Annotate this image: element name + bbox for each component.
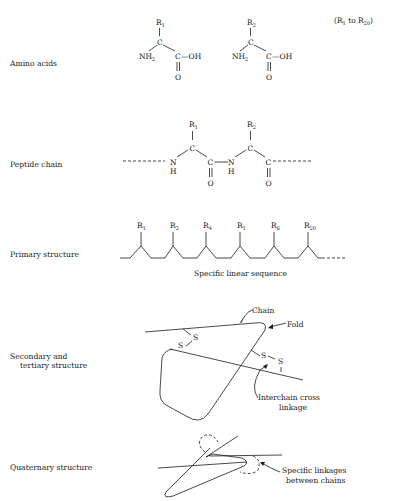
row-quaternary: Quaternary structure Specific linkages b…: [10, 435, 346, 497]
peptide-carbonyl-carbon-1: C: [208, 158, 214, 167]
peptide-carbonyl-oxygen-1: O: [208, 179, 214, 188]
annotation-linkages-1: Specific linkages: [282, 466, 346, 475]
range-note: (R1 to R20): [334, 16, 373, 26]
sulfur-4: S: [278, 357, 283, 366]
hydroxyl-2: —OH: [272, 52, 293, 61]
sulfur-1: S: [193, 333, 198, 342]
amino-group-1: NH2: [139, 52, 155, 62]
peptide-hydrogen-2: H: [228, 167, 235, 176]
r-group-1: R1: [156, 18, 165, 28]
label-peptide-chain: Peptide chain: [10, 160, 62, 169]
peptide-carbonyl-oxygen-2: O: [266, 179, 272, 188]
label-secondary: Secondary and: [10, 352, 68, 361]
r-group-2: R2: [247, 18, 256, 28]
chain-arrow: [241, 310, 252, 323]
side-chain-4: R1: [237, 221, 246, 231]
sulfur-3: S: [261, 351, 266, 360]
row-peptide-chain: Peptide chain R1 C N H C O R2 C N H C O: [10, 120, 313, 188]
carbonyl-oxygen-1: O: [175, 73, 181, 82]
annotation-cross-linkage-2: linkage: [279, 403, 307, 412]
peptide-r-group-2: R2: [247, 120, 256, 130]
peptide-r-group-1: R1: [189, 120, 198, 130]
side-chain-5: R6: [271, 221, 280, 231]
annotation-chain: Chain: [252, 306, 274, 315]
side-chain-1: R1: [137, 221, 146, 231]
label-tertiary: tertiary structure: [20, 361, 88, 370]
annotation-fold: Fold: [287, 320, 304, 329]
peptide-carbonyl-carbon-2: C: [266, 158, 272, 167]
amino-acid-1: R1 C NH2 C —OH O: [139, 18, 202, 82]
side-chain-6: R20: [304, 221, 316, 231]
label-quaternary: Quaternary structure: [10, 463, 93, 472]
peptide-hydrogen-1: H: [170, 167, 177, 176]
side-chain-2: R2: [170, 221, 179, 231]
row-primary-structure: Primary structure R1 R2 R4 R1 R6 R20 Spe…: [10, 221, 346, 278]
label-primary-structure: Primary structure: [10, 250, 80, 259]
caption-linear-sequence: Specific linear sequence: [194, 269, 287, 278]
alpha-carbon-1: C: [157, 38, 163, 47]
row-secondary-tertiary: Secondary and tertiary structure S S S S…: [10, 306, 320, 420]
peptide-alpha-carbon-2: C: [248, 144, 254, 153]
side-chain-3: R4: [203, 221, 212, 231]
folded-chain: [145, 323, 266, 420]
protein-structure-diagram: Amino acids (R1 to R20) R1 C NH2 C —OH O…: [0, 0, 395, 501]
annotation-cross-linkage-1: Interchain cross: [258, 393, 320, 402]
linkage-arrow: [262, 463, 280, 472]
label-amino-acids: Amino acids: [9, 59, 57, 68]
row-amino-acids: Amino acids (R1 to R20) R1 C NH2 C —OH O…: [9, 16, 373, 82]
alpha-carbon-2: C: [248, 38, 254, 47]
peptide-nitrogen-1: N: [170, 158, 177, 167]
amino-group-2: NH2: [232, 52, 248, 62]
peptide-alpha-carbon-1: C: [190, 144, 196, 153]
sulfur-2: S: [178, 341, 183, 350]
hydroxyl-1: —OH: [181, 52, 202, 61]
annotation-linkages-2: between chains: [286, 476, 345, 485]
peptide-nitrogen-2: N: [228, 158, 235, 167]
carbonyl-oxygen-2: O: [266, 73, 272, 82]
amino-acid-2: R2 C NH2 C —OH O: [232, 18, 293, 82]
